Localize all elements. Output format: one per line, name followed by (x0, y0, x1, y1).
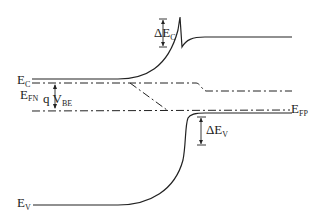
delta-ec-label: ΔEC (154, 25, 176, 42)
hole-quasi-fermi-level (32, 110, 290, 111)
delta-ev-arrow (197, 117, 206, 145)
electron-quasi-fermi-level (32, 83, 292, 91)
valence-band-curve (33, 113, 292, 205)
delta-ev-label: ΔEV (206, 122, 228, 139)
qvbe-label: q VBE (43, 91, 72, 108)
ev-label: EV (17, 195, 31, 212)
electron-quasi-fermi-diagonal (130, 83, 167, 110)
band-diagram: EC EFN q VBE EFP EV ΔEC ΔEV (0, 0, 322, 217)
efn-label: EFN (20, 87, 38, 103)
efp-label: EFP (291, 101, 308, 118)
